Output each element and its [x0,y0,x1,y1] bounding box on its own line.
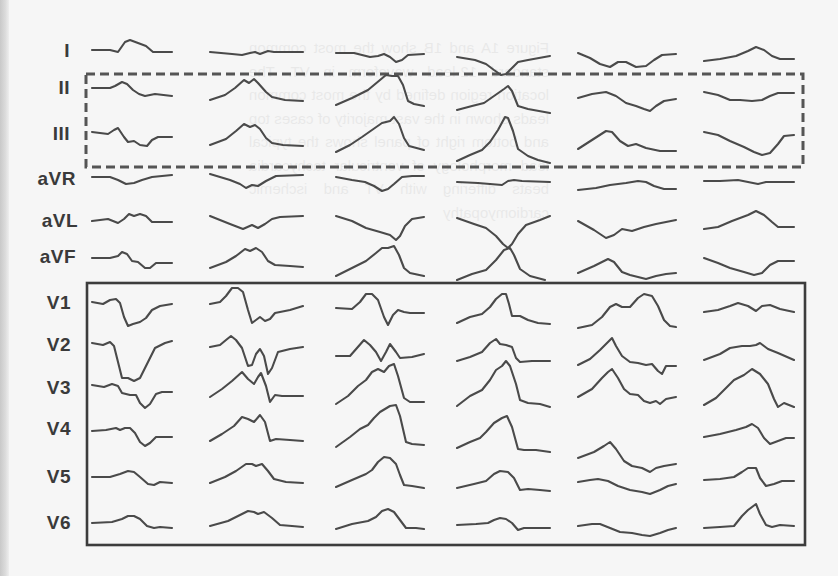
trace-V4-col6 [704,424,794,444]
trace-V5-col1 [92,471,172,485]
trace-I-col4 [457,56,550,75]
trace-V4-col3 [336,405,424,447]
trace-V4-col5 [578,442,676,472]
trace-V6-col4 [457,518,550,530]
trace-aVF-col6 [704,258,794,275]
trace-aVL-col5 [578,220,676,238]
trace-V1-col2 [210,288,303,323]
ecg-traces [0,0,838,576]
trace-III-col6 [704,132,794,155]
trace-V4-col1 [92,428,172,446]
trace-I-col1 [92,40,172,52]
trace-V6-col1 [92,516,172,528]
trace-II-col2 [210,79,303,101]
trace-aVF-col5 [578,259,676,279]
trace-aVR-col1 [92,175,172,184]
column-4 [457,56,550,530]
trace-V6-col2 [210,511,303,527]
trace-I-col5 [578,53,676,67]
trace-V3-col6 [704,369,794,407]
trace-V5-col5 [578,479,676,494]
column-2 [210,51,303,527]
trace-V2-col2 [210,336,303,374]
column-5 [578,53,676,536]
trace-V6-col5 [578,524,676,536]
trace-aVF-col3 [336,246,424,276]
trace-III-col3 [336,117,424,152]
trace-I-col2 [210,51,303,55]
trace-V3-col4 [457,361,550,407]
trace-V4-col4 [457,416,550,452]
trace-II-col3 [336,75,424,106]
trace-V2-col1 [92,341,172,381]
trace-aVL-col4 [457,216,550,248]
trace-II-col4 [457,86,550,113]
trace-V2-col4 [457,339,550,362]
trace-aVL-col6 [704,211,794,229]
trace-aVR-col5 [578,181,676,190]
trace-V2-col5 [578,338,676,374]
trace-aVR-col2 [210,174,303,188]
trace-V5-col3 [336,457,424,488]
trace-V3-col2 [210,372,303,402]
trace-aVR-col4 [457,180,550,185]
trace-aVR-col6 [704,180,794,184]
trace-I-col6 [704,47,794,61]
trace-III-col4 [457,117,550,163]
trace-III-col5 [578,131,676,151]
trace-II-col6 [704,92,794,101]
trace-III-col1 [92,128,172,146]
trace-aVF-col1 [92,252,172,268]
trace-V6-col6 [704,504,794,528]
trace-V1-col6 [704,303,794,312]
trace-aVF-col2 [210,248,303,268]
trace-V2-col3 [336,340,424,361]
trace-V5-col6 [704,468,794,486]
trace-V2-col6 [704,343,794,360]
trace-V5-col2 [210,464,303,483]
solid-highlight-box [87,283,805,545]
trace-aVL-col2 [210,216,303,229]
trace-V3-col3 [336,364,424,404]
trace-V1-col3 [336,294,424,325]
trace-II-col1 [92,82,172,96]
trace-II-col5 [578,92,676,111]
trace-aVR-col3 [336,176,424,191]
trace-V6-col3 [336,509,424,529]
trace-aVL-col3 [336,216,424,240]
dashed-highlight-box [86,74,803,167]
trace-I-col3 [336,53,424,62]
column-6 [704,47,794,528]
trace-aVF-col4 [457,248,545,280]
trace-V3-col1 [92,384,172,408]
trace-III-col2 [210,124,303,146]
trace-V1-col5 [578,294,676,328]
trace-V1-col4 [457,294,550,324]
trace-V5-col4 [457,471,550,491]
column-3 [336,53,424,529]
trace-aVL-col1 [92,214,172,223]
trace-V1-col1 [92,299,172,326]
trace-V4-col2 [210,415,303,441]
